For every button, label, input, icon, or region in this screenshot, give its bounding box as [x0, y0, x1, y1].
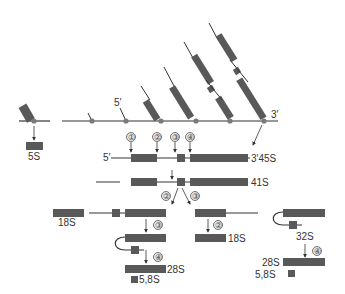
label-28s-left: 28S [167, 264, 185, 275]
label-45s: 3′45S [251, 153, 277, 164]
middle-branch: ② 18S [195, 209, 258, 244]
rrna-processing-diagram: 5S 5′ 3′ [0, 0, 345, 294]
step-mid-2: ② [215, 221, 222, 230]
cleavage-site-4: ④ [186, 133, 195, 153]
5s-rna-box [26, 142, 43, 150]
5-8s-right-box [288, 270, 295, 277]
cleavage-site-2: ② [153, 133, 162, 153]
chromatin-rdna: 5′ 3′ [62, 23, 279, 145]
svg-text:④: ④ [187, 133, 194, 142]
precursor-45s: ① ② ③ ④ 5′ 3′45S [103, 133, 277, 165]
diagram-svg: 5S 5′ 3′ [0, 0, 345, 294]
label-32s: 32S [296, 231, 314, 242]
label-5-prime-45s: 5′ [103, 152, 111, 163]
svg-text:③: ③ [172, 133, 179, 142]
svg-text:①: ① [128, 133, 135, 142]
precursor-41s: 41S ② ③ [96, 177, 269, 204]
label-18s-right: 18S [228, 233, 246, 244]
left-branch: 18S ③ ④ 28S 5,8S [53, 209, 185, 285]
cleavage-site-3: ③ [171, 133, 180, 153]
cleavage-site-1: ① [127, 133, 136, 153]
28s-region [190, 154, 248, 162]
label-3-prime-top: 3′ [271, 109, 279, 120]
label-5-prime-top: 5′ [114, 97, 122, 108]
split-right-marker: ③ [192, 192, 199, 201]
chromatin-5s-gene: 5S [19, 104, 50, 162]
label-5-8s-left: 5,8S [139, 274, 160, 285]
18s-right-box [195, 234, 226, 242]
5-8s-region [177, 154, 185, 162]
5-8s-left-box [131, 276, 138, 283]
label-41s: 41S [251, 177, 269, 188]
step-left-4: ④ [155, 253, 162, 262]
label-5s: 5S [28, 151, 41, 162]
split-left-marker: ② [163, 192, 170, 201]
18s-left-box [53, 209, 84, 217]
28s-right-box [283, 258, 325, 266]
step-left-3: ③ [155, 221, 162, 230]
label-28s-right: 28S [262, 257, 280, 268]
28s-left-box [125, 265, 166, 273]
step-right-4: ④ [314, 247, 321, 256]
label-18s-left: 18S [58, 217, 76, 228]
polymerase-node [31, 118, 36, 123]
svg-text:②: ② [154, 133, 161, 142]
label-5-8s-right: 5,8S [255, 269, 276, 280]
18s-region [131, 154, 157, 162]
right-branch: 32S ④ 28S 5,8S [255, 209, 325, 280]
